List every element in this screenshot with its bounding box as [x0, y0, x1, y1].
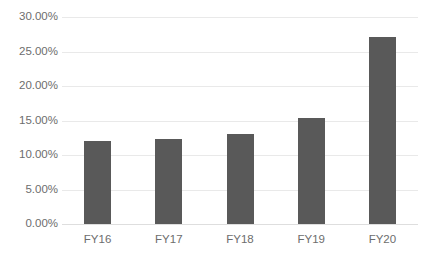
bar-slot — [204, 17, 275, 224]
axis-baseline — [62, 224, 418, 225]
x-axis-tick-label-fy16: FY16 — [62, 228, 133, 250]
chart-title-clipped — [8, 0, 388, 4]
bar-chart: 30.00% 25.00% 20.00% 15.00% 10.00% 5.00%… — [0, 0, 425, 260]
bar-slot — [276, 17, 347, 224]
bar-fy18[interactable] — [227, 134, 254, 224]
y-axis-tick-label: 0.00% — [0, 218, 58, 230]
y-axis-tick-label: 20.00% — [0, 80, 58, 92]
x-axis-tick-label-fy19: FY19 — [276, 228, 347, 250]
bar-fy19[interactable] — [298, 118, 325, 224]
bar-slot — [62, 17, 133, 224]
x-axis-tick-label-fy18: FY18 — [204, 228, 275, 250]
y-axis-tick-label: 25.00% — [0, 46, 58, 58]
y-axis: 30.00% 25.00% 20.00% 15.00% 10.00% 5.00%… — [0, 17, 58, 224]
y-axis-tick-label: 5.00% — [0, 184, 58, 196]
y-axis-tick-label: 10.00% — [0, 149, 58, 161]
bar-slot — [347, 17, 418, 224]
bar-fy17[interactable] — [155, 139, 182, 224]
x-axis: FY16 FY17 FY18 FY19 FY20 — [62, 228, 418, 250]
y-axis-tick-label: 15.00% — [0, 115, 58, 127]
bar-fy20[interactable] — [369, 37, 396, 224]
y-axis-tick-label: 30.00% — [0, 11, 58, 23]
bar-slot — [133, 17, 204, 224]
bar-series — [62, 17, 418, 224]
bar-fy16[interactable] — [84, 141, 111, 224]
x-axis-tick-label-fy17: FY17 — [133, 228, 204, 250]
x-axis-tick-label-fy20: FY20 — [347, 228, 418, 250]
